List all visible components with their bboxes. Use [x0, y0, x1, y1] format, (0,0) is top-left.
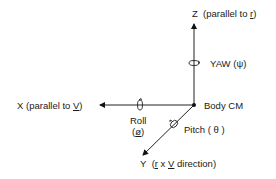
z-letter: Z: [192, 8, 198, 19]
y-axis-label: Y (r x V direction): [140, 158, 216, 169]
axes-drawing: [0, 0, 276, 179]
origin-label: Body CM: [204, 100, 243, 111]
origin-point: [192, 103, 196, 107]
x-letter: X: [17, 100, 23, 111]
roll-symbol-wrap: (ø): [130, 126, 146, 137]
yaw-symbol: (ψ): [233, 58, 246, 69]
yaw-label: YAW (ψ): [210, 58, 246, 69]
roll-text: Roll: [130, 115, 146, 126]
yaw-text: YAW: [210, 58, 231, 69]
z-text: (parallel to: [203, 8, 250, 19]
roll-label: Roll (ø): [130, 115, 146, 137]
x-text: (parallel to: [26, 100, 73, 111]
x-close: ): [79, 100, 82, 111]
x-axis-label: X (parallel to V): [17, 100, 83, 111]
pitch-text: Pitch: [184, 124, 205, 135]
pitch-symbol: ( θ ): [208, 124, 225, 135]
z-close: ): [253, 8, 256, 19]
y-x: x: [158, 158, 168, 169]
roll-symbol: ø: [135, 126, 141, 137]
y-close: direction): [174, 158, 216, 169]
z-axis-label: Z (parallel to r): [192, 8, 256, 19]
y-letter: Y: [140, 158, 146, 169]
pitch-label: Pitch ( θ ): [184, 124, 225, 135]
